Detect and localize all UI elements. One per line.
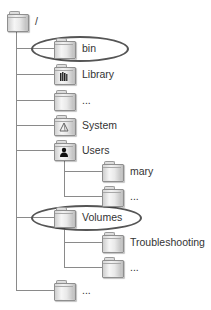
tree-node-volumes[interactable]: Volumes xyxy=(54,207,122,227)
node-label: Troubleshooting xyxy=(130,236,205,248)
tree-node-mary[interactable]: mary xyxy=(102,161,153,181)
node-label: Users xyxy=(82,144,109,156)
system-folder-icon xyxy=(54,115,76,135)
folder-icon xyxy=(102,186,124,206)
folder-icon xyxy=(54,38,76,58)
tree-node-bin[interactable]: bin xyxy=(54,38,96,58)
tree-node-troubleshooting[interactable]: Troubleshooting xyxy=(102,232,205,252)
branch-volumes-ellipsis xyxy=(64,267,102,268)
node-label: / xyxy=(35,15,38,27)
tree-node-volumes-ellipsis[interactable]: ... xyxy=(102,257,139,277)
branch-ellipsis-2 xyxy=(16,290,54,291)
branch-library xyxy=(16,74,54,75)
tree-node-system[interactable]: System xyxy=(54,115,117,135)
node-label: ... xyxy=(82,94,91,106)
tree-node-users-ellipsis[interactable]: ... xyxy=(102,186,139,206)
folder-icon xyxy=(102,161,124,181)
tree-node-users[interactable]: Users xyxy=(54,140,109,160)
folder-icon xyxy=(102,257,124,277)
tree-node-ellipsis-last[interactable]: ... xyxy=(54,280,91,300)
branch-system xyxy=(16,125,54,126)
volumes-trunk-line xyxy=(64,227,65,268)
branch-mary xyxy=(64,171,102,172)
folder-icon xyxy=(54,280,76,300)
branch-users-ellipsis xyxy=(64,196,102,197)
folder-icon xyxy=(102,232,124,252)
tree-node-ellipsis[interactable]: ... xyxy=(54,90,91,110)
folder-icon xyxy=(7,11,29,31)
tree-node-library[interactable]: Library xyxy=(54,64,114,84)
branch-users xyxy=(16,150,54,151)
branch-ellipsis-1 xyxy=(16,100,54,101)
node-label: mary xyxy=(130,165,153,177)
users-trunk-line xyxy=(64,160,65,197)
node-label: ... xyxy=(130,261,139,273)
library-folder-icon xyxy=(54,64,76,84)
tree-node-root[interactable]: / xyxy=(7,11,38,31)
node-label: System xyxy=(82,119,117,131)
node-label: bin xyxy=(82,42,96,54)
users-folder-icon xyxy=(54,140,76,160)
node-label: ... xyxy=(130,190,139,202)
folder-icon xyxy=(54,90,76,110)
branch-troubleshooting xyxy=(64,242,102,243)
folder-icon xyxy=(54,207,76,227)
node-label: Volumes xyxy=(82,211,122,223)
root-trunk-line xyxy=(16,31,17,291)
node-label: Library xyxy=(82,68,114,80)
node-label: ... xyxy=(82,284,91,296)
